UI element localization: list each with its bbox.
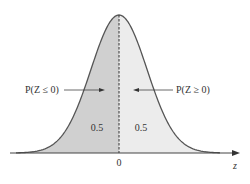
left-probability-label: P(Z ≤ 0) [25, 84, 59, 96]
right-area-value: 0.5 [135, 122, 148, 133]
normal-distribution-diagram: 0 z P(Z ≤ 0) P(Z ≥ 0) 0.5 0.5 [0, 0, 250, 184]
left-area-value: 0.5 [91, 122, 104, 133]
center-tick-label: 0 [117, 157, 122, 168]
right-probability-label: P(Z ≥ 0) [176, 84, 210, 96]
axis-arrow-icon [232, 150, 240, 156]
axis-label-z: z [232, 160, 237, 171]
